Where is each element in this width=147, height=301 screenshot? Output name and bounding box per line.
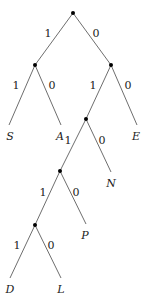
edge-label: 1	[90, 79, 97, 92]
edge-root-n1	[35, 13, 73, 65]
edge-label: 0	[93, 27, 100, 40]
edge-label: 1	[14, 239, 21, 252]
leaf-label-S: S	[6, 130, 14, 143]
internal-node-dot	[71, 11, 75, 15]
internal-node-dot	[33, 63, 37, 67]
internal-node-dot	[58, 169, 62, 173]
leaf-label-D: D	[5, 283, 15, 296]
leaf-label-A: A	[55, 130, 64, 143]
tree-edges	[9, 13, 137, 278]
edge-n2-n3	[86, 65, 111, 119]
edge-label: 1	[65, 134, 72, 147]
leaf-label-N: N	[105, 177, 116, 190]
edge-label: 0	[49, 79, 56, 92]
edge-label: 1	[40, 186, 47, 199]
leaf-label-E: E	[131, 130, 140, 143]
internal-node-dot	[33, 223, 37, 227]
edge-n1-S	[9, 65, 35, 125]
leaf-labels: SAENPDL	[5, 130, 140, 296]
edge-n2-E	[111, 65, 137, 125]
internal-node-dot	[84, 117, 88, 121]
edge-labels: 101010101010	[13, 27, 132, 252]
edge-label: 1	[13, 79, 20, 92]
edge-label: 0	[48, 239, 55, 252]
edge-label: 0	[125, 79, 132, 92]
leaf-label-P: P	[80, 229, 89, 242]
edge-n1-A	[35, 65, 61, 125]
edge-label: 0	[99, 134, 106, 147]
binary-tree-diagram: 101010101010 SAENPDL	[0, 0, 147, 301]
internal-node-dot	[109, 63, 113, 67]
edge-label: 0	[73, 186, 80, 199]
leaf-label-L: L	[56, 283, 64, 296]
edge-label: 1	[45, 27, 52, 40]
